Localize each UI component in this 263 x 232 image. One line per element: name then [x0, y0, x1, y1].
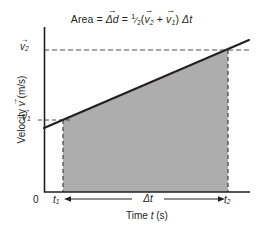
x-axis-label-symbol: t: [151, 210, 154, 221]
y-axis-label-units: (m/s): [16, 76, 27, 99]
area-equation: Area = →Δd = 1⁄2(→v2 + →v1) Δt: [0, 12, 263, 26]
vector-arrow-icon: →: [11, 101, 15, 106]
vector-arrow-icon: →: [144, 8, 153, 12]
equation-equals-2: =: [122, 13, 128, 25]
close-paren: ): [175, 13, 179, 25]
fraction-numerator: 1: [131, 12, 136, 21]
equation-equals-1: =: [96, 13, 102, 25]
shaded-area-trapezoid: [63, 50, 228, 192]
x-axis-label-units: (s): [156, 210, 168, 221]
v1-vector: →v1: [166, 13, 175, 26]
y-tick-label-v1: →v1: [22, 111, 31, 122]
vector-arrow-icon: →: [20, 37, 29, 41]
plus-sign: +: [157, 13, 163, 25]
v2-vector: →v2: [144, 13, 153, 26]
origin-tick-label: 0: [33, 194, 39, 205]
x-tick-label-t2: t2: [224, 194, 230, 205]
x-axis-label: Time t (s): [44, 210, 250, 221]
delta-d-vector: →Δd: [106, 13, 119, 25]
one-half-fraction: 1⁄2: [131, 12, 141, 26]
x-tick-label-t1: t1: [53, 194, 59, 205]
vector-arrow-icon: →: [22, 107, 31, 111]
vector-arrow-icon: →: [166, 8, 175, 12]
velocity-time-graph-figure: Area = →Δd = 1⁄2(→v2 + →v1) Δt Velocity …: [0, 0, 263, 232]
x-axis-label-prefix: Time: [126, 210, 148, 221]
y-tick-label-v2: →v2: [20, 41, 29, 52]
equation-lhs: Area: [71, 13, 94, 25]
interval-label-delta-t: Δt: [132, 193, 164, 204]
vector-arrow-icon: →: [106, 8, 119, 12]
equation-delta-t: Δt: [182, 13, 192, 25]
